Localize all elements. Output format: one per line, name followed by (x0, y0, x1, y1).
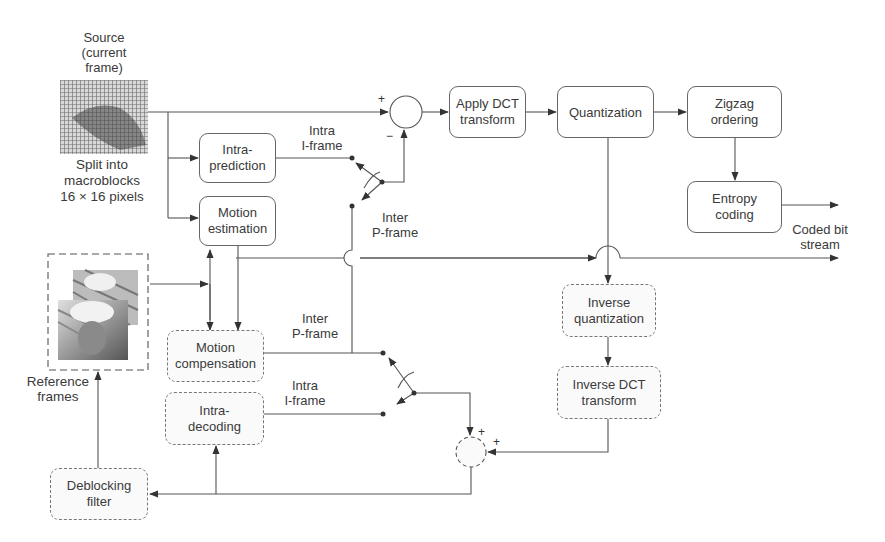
inverse-quantization-block: Inverse quantization (562, 284, 656, 337)
reference-frames-label: Reference frames (20, 374, 96, 404)
deblocking-filter-label: Deblocking filter (67, 478, 131, 510)
inverse-dct-label: Inverse DCT transform (573, 377, 646, 409)
quantization-block: Quantization (557, 86, 654, 138)
zigzag-block: Zigzag ordering (687, 86, 782, 138)
switch-contacts (350, 156, 417, 417)
intra-prediction-label: Intra- prediction (209, 142, 265, 174)
intra-decoding-label: Intra- decoding (188, 403, 241, 435)
intra-prediction-block: Intra- prediction (199, 133, 276, 183)
adder-plus-top-sign: + (478, 425, 485, 439)
bottom-inter-label: Inter P-frame (282, 311, 348, 341)
source-caption: Split into macroblocks 16 × 16 pixels (46, 157, 158, 205)
bottom-intra-label: Intra I-frame (272, 378, 338, 408)
inverse-quantization-label: Inverse quantization (574, 295, 644, 327)
source-label: Source (current frame) (64, 30, 144, 75)
quantization-label: Quantization (569, 105, 642, 121)
entropy-coding-label: Entropy coding (712, 191, 757, 223)
apply-dct-block: Apply DCT transform (449, 86, 526, 138)
apply-dct-label: Apply DCT transform (456, 96, 519, 128)
adder-plus-right-sign: + (493, 435, 500, 449)
entropy-coding-block: Entropy coding (687, 181, 782, 233)
inverse-dct-block: Inverse DCT transform (557, 366, 661, 419)
top-inter-label: Inter P-frame (362, 210, 428, 240)
motion-compensation-block: Motion compensation (167, 330, 264, 382)
motion-estimation-block: Motion estimation (199, 196, 276, 246)
top-intra-label: Intra I-frame (292, 123, 352, 153)
intra-decoding-block: Intra- decoding (165, 392, 264, 445)
zigzag-label: Zigzag ordering (711, 96, 759, 128)
diagram-connections (0, 0, 885, 542)
coded-bitstream-label: Coded bit stream (784, 222, 856, 252)
subtractor-plus-sign: + (378, 92, 385, 106)
subtractor-minus-sign: − (386, 129, 393, 143)
source-frame-image (60, 80, 148, 154)
deblocking-filter-block: Deblocking filter (50, 468, 148, 520)
motion-compensation-label: Motion compensation (175, 340, 256, 372)
motion-estimation-label: Motion estimation (208, 205, 267, 237)
